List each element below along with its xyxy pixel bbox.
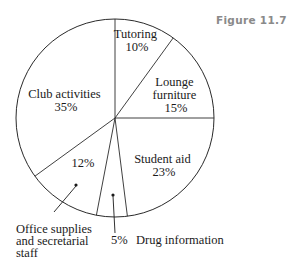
drug-callout-arrow [111, 193, 115, 233]
label-club-activities: Club activities 35% [28, 87, 104, 114]
pie-slices [35, 19, 214, 216]
label-drug-information: Drug information [136, 233, 225, 247]
label-student-aid: Student aid 23% [134, 152, 194, 179]
label-lounge-furniture: Lounge furniture 15% [153, 75, 200, 115]
slice-boundary [96, 118, 115, 215]
label-office-percent: 12% [72, 156, 95, 170]
label-tutoring: Tutoring 10% [114, 27, 160, 54]
label-drug-percent: 5% [111, 233, 128, 247]
slice-boundary [115, 118, 127, 216]
pie-chart: Tutoring 10% Lounge furniture 15% Studen… [0, 0, 294, 265]
label-office-supplies: Office supplies and secretarial staff [16, 222, 95, 260]
